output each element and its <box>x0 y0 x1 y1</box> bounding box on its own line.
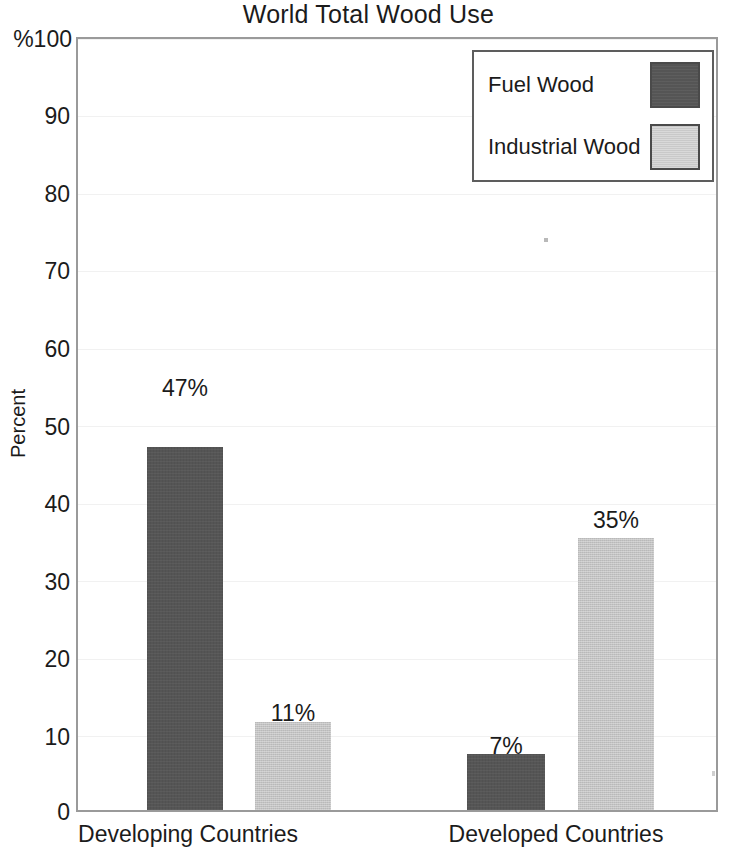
bar-value-developing-fuel-wood: 47% <box>125 375 245 402</box>
y-tick-label-100: %100 <box>0 26 72 53</box>
chart-title-text: World Total Wood Use <box>243 0 494 29</box>
plot-frame: 47% 11% 7% 35% Fuel Wood Industrial Wood <box>76 37 718 812</box>
legend-swatch-industrial-wood-icon <box>650 124 700 170</box>
scan-artifact-dot <box>544 238 548 242</box>
y-tick-label-20: 20 <box>0 646 70 673</box>
legend-swatch-fuel-wood-icon <box>650 62 700 108</box>
bar-value-developing-industrial-wood: 11% <box>233 700 353 727</box>
scan-artifact-mark <box>712 771 715 776</box>
bar-developing-industrial-wood[interactable] <box>255 722 331 810</box>
bar-developing-fuel-wood[interactable] <box>147 447 223 810</box>
gridline-70 <box>78 271 716 272</box>
x-axis-label-developed-countries: Developed Countries <box>396 821 716 848</box>
gridline-60 <box>78 349 716 350</box>
chart-container: World Total Wood Use Percent %100 90 80 … <box>0 0 733 854</box>
y-tick-label-80: 80 <box>0 181 70 208</box>
legend-label-fuel-wood: Fuel Wood <box>488 72 594 98</box>
chart-title: World Total Wood Use <box>0 0 733 29</box>
legend-entry-industrial-wood[interactable]: Industrial Wood <box>474 116 712 178</box>
y-tick-label-30: 30 <box>0 569 70 596</box>
bar-developed-fuel-wood[interactable] <box>467 754 545 810</box>
x-axis-label-developing-countries: Developing Countries <box>28 821 348 848</box>
y-tick-label-40: 40 <box>0 491 70 518</box>
gridline-50 <box>78 426 716 427</box>
legend-label-industrial-wood: Industrial Wood <box>488 134 640 160</box>
y-tick-label-60: 60 <box>0 336 70 363</box>
bar-value-developed-industrial-wood: 35% <box>556 507 676 534</box>
chart-legend[interactable]: Fuel Wood Industrial Wood <box>472 50 714 182</box>
y-tick-label-70: 70 <box>0 258 70 285</box>
bar-value-developed-fuel-wood: 7% <box>446 733 566 760</box>
plot-area: 47% 11% 7% 35% Fuel Wood Industrial Wood <box>78 39 716 810</box>
y-tick-label-90: 90 <box>0 103 70 130</box>
gridline-80 <box>78 194 716 195</box>
gridline-100 <box>78 39 716 40</box>
y-tick-label-10: 10 <box>0 724 70 751</box>
bar-developed-industrial-wood[interactable] <box>578 538 654 810</box>
legend-entry-fuel-wood[interactable]: Fuel Wood <box>474 54 712 116</box>
y-tick-label-50: 50 <box>0 414 70 441</box>
